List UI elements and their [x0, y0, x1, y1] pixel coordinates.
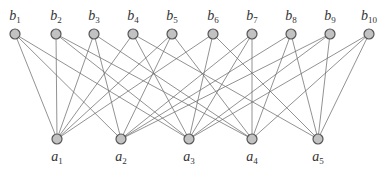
label-b7: b7	[246, 8, 258, 25]
label-b5: b5	[166, 8, 178, 25]
node-a3	[184, 134, 194, 144]
edge-b10-a4	[252, 34, 369, 139]
label-b2: b2	[50, 8, 62, 25]
label-a4: a4	[246, 149, 258, 166]
label-b3: b3	[88, 8, 100, 25]
edge-b9-a3	[189, 34, 330, 139]
node-b6	[208, 29, 218, 39]
edge-b6-a3	[189, 34, 213, 139]
label-a3: a3	[183, 149, 195, 166]
label-b4: b4	[127, 8, 139, 25]
label-a2: a2	[115, 149, 127, 166]
edge-b2-a4	[56, 34, 252, 139]
node-b10	[364, 29, 374, 39]
edge-b8-a4	[252, 34, 291, 139]
node-a1	[52, 134, 62, 144]
node-b1	[10, 29, 20, 39]
edge-b10-a5	[318, 34, 369, 139]
edge-b2-a1	[56, 34, 57, 139]
label-b8: b8	[285, 8, 297, 25]
label-b10: b10	[361, 8, 378, 25]
node-b5	[167, 29, 177, 39]
label-b1: b1	[9, 8, 21, 25]
edge-b5-a4	[172, 34, 252, 139]
node-b7	[247, 29, 257, 39]
node-a2	[116, 134, 126, 144]
label-b6: b6	[207, 8, 219, 25]
edge-b9-a2	[121, 34, 330, 139]
node-b8	[286, 29, 296, 39]
edge-b10-a3	[189, 34, 369, 139]
edge-b1-a3	[15, 34, 189, 139]
node-b4	[128, 29, 138, 39]
edges	[15, 34, 369, 139]
node-b2	[51, 29, 61, 39]
edge-b3-a2	[94, 34, 121, 139]
node-a4	[247, 134, 257, 144]
node-a5	[313, 134, 323, 144]
edge-b1-a1	[15, 34, 57, 139]
edge-b7-a2	[121, 34, 252, 139]
label-a1: a1	[51, 149, 63, 166]
edge-b9-a5	[318, 34, 330, 139]
node-b3	[89, 29, 99, 39]
node-b9	[325, 29, 335, 39]
edge-b2-a3	[56, 34, 189, 139]
label-b9: b9	[324, 8, 336, 25]
edge-b8-a5	[291, 34, 318, 139]
edge-b7-a3	[189, 34, 252, 139]
edge-b6-a1	[57, 34, 213, 139]
bipartite-graph: b1b2b3b4b5b6b7b8b9b10a1a2a3a4a5	[0, 0, 390, 174]
label-a5: a5	[312, 149, 324, 166]
